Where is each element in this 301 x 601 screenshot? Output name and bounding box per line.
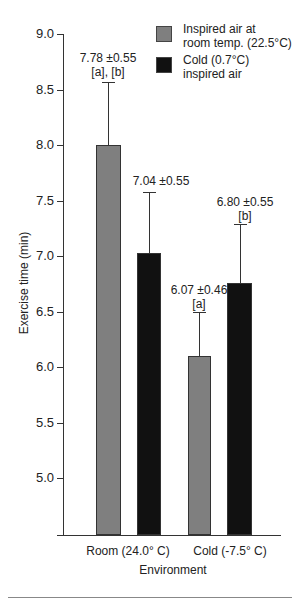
y-tick	[57, 423, 63, 424]
annotation-significance: [a], [b]	[68, 65, 148, 79]
y-tick-label: 5.0	[14, 471, 54, 485]
y-tick-label: 9.0	[14, 27, 54, 41]
error-bar	[240, 224, 241, 283]
error-cap	[193, 312, 206, 313]
annotation-significance: [b]	[205, 209, 285, 223]
legend-text: Inspired air at	[183, 22, 292, 36]
y-axis-label: Exercise time (min)	[17, 203, 31, 363]
error-bar	[199, 312, 200, 356]
bottom-divider	[8, 597, 292, 598]
legend-label-cold-air: Cold (0.7°C) inspired air	[183, 53, 249, 81]
y-tick-label: 8.5	[14, 83, 54, 97]
error-bar	[108, 82, 109, 145]
bar-cold-coldair	[227, 283, 252, 535]
error-cap	[234, 224, 247, 225]
legend-swatch-room-air	[156, 26, 172, 42]
annotation: 7.04 ±0.55	[121, 174, 201, 188]
category-label-room: Room (24.0° C)	[78, 544, 178, 558]
error-cap	[102, 82, 115, 83]
legend-swatch-cold-air	[156, 57, 172, 73]
annotation: 7.78 ±0.55 [a], [b]	[68, 51, 148, 79]
y-tick-label: 5.5	[14, 416, 54, 430]
annotation-significance: [a]	[159, 297, 239, 311]
annotation-value: 6.80 ±0.55	[205, 195, 285, 209]
y-tick	[57, 367, 63, 368]
annotation: 6.80 ±0.55 [b]	[205, 195, 285, 223]
y-tick-label: 8.0	[14, 138, 54, 152]
y-axis	[63, 34, 64, 535]
legend-text: room temp. (22.5°C)	[183, 36, 292, 50]
error-cap	[143, 192, 156, 193]
bar-room-coldair	[137, 253, 161, 535]
bar-room-roomair	[96, 145, 121, 535]
y-tick	[57, 90, 63, 91]
y-tick	[57, 256, 63, 257]
x-axis	[57, 535, 281, 536]
annotation-value: 6.07 ±0.46	[159, 283, 239, 297]
bar-cold-roomair	[188, 356, 211, 535]
legend-text: inspired air	[183, 67, 249, 81]
annotation-value: 7.04 ±0.55	[121, 174, 201, 188]
y-tick	[57, 145, 63, 146]
category-label-cold: Cold (-7.5° C)	[180, 544, 280, 558]
legend-label-room-air: Inspired air at room temp. (22.5°C)	[183, 22, 292, 50]
annotation: 6.07 ±0.46 [a]	[159, 283, 239, 311]
x-axis-label: Environment	[118, 563, 228, 577]
annotation-value: 7.78 ±0.55	[68, 51, 148, 65]
legend-text: Cold (0.7°C)	[183, 53, 249, 67]
error-bar	[149, 192, 150, 253]
y-tick	[57, 201, 63, 202]
y-tick	[57, 478, 63, 479]
y-tick	[57, 312, 63, 313]
y-tick	[57, 34, 63, 35]
